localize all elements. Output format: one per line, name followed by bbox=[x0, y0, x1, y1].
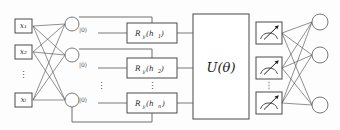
hidden-node-3 bbox=[65, 93, 79, 107]
svg-text:(h: (h bbox=[146, 29, 154, 38]
circuit-diagram-figure: ⋮ R y (h 1 ) R y (h 2 ) R y (h n bbox=[0, 0, 340, 130]
svg-text:y: y bbox=[142, 33, 146, 40]
measurement-gate-1 bbox=[256, 22, 282, 44]
svg-text:(h: (h bbox=[146, 99, 154, 108]
hidden-node-2 bbox=[65, 48, 79, 62]
input-layer-ellipsis: ⋮ bbox=[19, 70, 28, 80]
gate-column-ellipsis: ⋮ bbox=[148, 81, 157, 91]
measurement-gate-3 bbox=[256, 92, 282, 114]
svg-text:): ) bbox=[160, 29, 164, 38]
svg-text:y: y bbox=[142, 68, 146, 75]
measurement-to-output-edges bbox=[282, 22, 312, 105]
hidden-node-1 bbox=[65, 17, 79, 31]
svg-text:): ) bbox=[160, 64, 164, 73]
svg-text:R: R bbox=[134, 99, 141, 108]
diagram-canvas: ⋮ R y (h 1 ) R y (h 2 ) R y (h n bbox=[0, 0, 340, 130]
svg-text:R: R bbox=[134, 29, 141, 38]
svg-text:): ) bbox=[161, 99, 165, 108]
svg-text:(h: (h bbox=[146, 64, 154, 73]
svg-text:y: y bbox=[142, 103, 146, 110]
input-node-1 bbox=[15, 19, 32, 33]
measurement-gate-2 bbox=[256, 57, 282, 79]
input-node-l bbox=[15, 93, 32, 107]
input-node-2 bbox=[15, 45, 32, 59]
output-node-2 bbox=[312, 47, 328, 63]
ket-column-ellipsis: ⋮ bbox=[97, 81, 106, 91]
svg-text:n: n bbox=[158, 103, 161, 109]
output-node-3 bbox=[312, 97, 328, 113]
unitary-label: U(θ) bbox=[207, 60, 236, 75]
input-to-hidden-edges bbox=[33, 24, 65, 100]
output-node-1 bbox=[312, 14, 328, 30]
svg-text:R: R bbox=[134, 64, 141, 73]
